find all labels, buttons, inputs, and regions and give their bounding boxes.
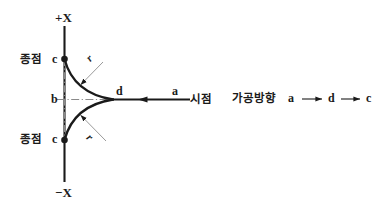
point-label-c-lower: c (52, 133, 57, 145)
point-c-upper-dot (61, 56, 68, 63)
lower-radius-leader-line (81, 115, 107, 141)
legend-step-c: c (366, 92, 371, 104)
legend-step-d: d (328, 92, 335, 104)
upper-arc (65, 59, 114, 100)
point-label-a: a (172, 85, 178, 97)
point-c-lower-dot (61, 137, 68, 144)
axis-label-positive-x: +X (55, 11, 72, 24)
diagram-canvas: +X −X 종점 c 종점 c b d a 시점 r r 가공방향 a d c (0, 0, 385, 208)
legend-title: 가공방향 (232, 93, 276, 105)
legend-step-a: a (288, 92, 294, 104)
annotation-end-point-lower: 종점 (20, 134, 42, 146)
upper-radius-leader-line (81, 62, 104, 85)
annotation-end-point-upper: 종점 (20, 54, 42, 66)
point-label-b: b (51, 93, 58, 105)
annotation-start-point: 시점 (190, 94, 212, 106)
point-label-d: d (116, 85, 123, 97)
tool-path-arrowhead (138, 97, 148, 103)
point-label-c-upper: c (52, 53, 57, 65)
axis-label-negative-x: −X (55, 186, 72, 199)
